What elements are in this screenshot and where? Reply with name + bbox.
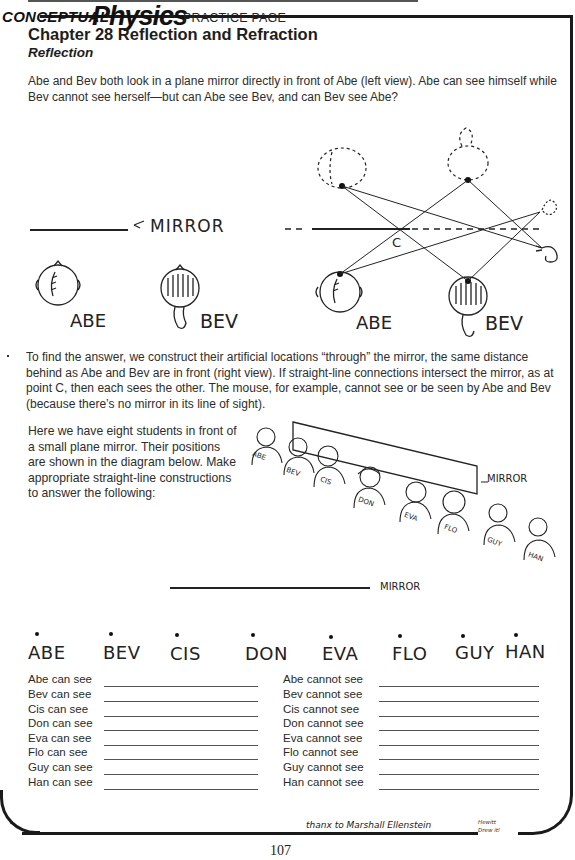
- answer-label-eva-cannot: Eva cannot see: [283, 732, 362, 744]
- position-label-han: HAN: [505, 641, 546, 662]
- answer-label-han-can: Han can see: [28, 776, 93, 788]
- answer-blank-bev-cannot[interactable]: [379, 701, 539, 702]
- abe-head-icon: [316, 272, 362, 312]
- abe-label: ABE: [70, 310, 106, 331]
- answer-blank-bev-can[interactable]: [104, 701, 258, 702]
- explanation-paragraph: To find the answer, we construct their a…: [26, 350, 556, 412]
- answer-blank-han-can[interactable]: [104, 789, 258, 790]
- position-dot-guy: [461, 634, 465, 638]
- bev-head-icon: [449, 277, 487, 336]
- answer-blank-don-can[interactable]: [104, 730, 258, 731]
- credit-text: thanx to Marshall Ellenstein: [306, 820, 431, 830]
- mouse-icon: [536, 246, 557, 262]
- left-view-illustration: [0, 120, 290, 340]
- position-dot-eva: [329, 635, 333, 639]
- answer-blank-flo-can[interactable]: [104, 759, 258, 760]
- answer-blank-flo-cannot[interactable]: [379, 759, 539, 760]
- chapter-title: Chapter 28 Reflection and Refraction: [28, 25, 318, 44]
- answer-blank-don-cannot[interactable]: [379, 730, 539, 731]
- intro-paragraph: Abe and Bev both look in a plane mirror …: [28, 74, 558, 105]
- position-dot-flo: [398, 634, 402, 638]
- mirror-line: [170, 587, 370, 589]
- position-dot-bev: [109, 632, 113, 636]
- position-label-bev: BEV: [103, 642, 141, 663]
- answer-label-eva-can: Eva can see: [28, 732, 91, 744]
- bev-label: BEV: [485, 312, 523, 334]
- figure-students-perspective: MIRROR ABE BEV CIS DON EVA FLO GUY HAN: [240, 410, 570, 580]
- student-positions-row: ABE BEV CIS DON EVA FLO GUY HAN: [0, 630, 575, 670]
- bullet-mark: [7, 355, 9, 357]
- answer-blank-eva-can[interactable]: [104, 745, 258, 746]
- answer-label-bev-cannot: Bev cannot see: [283, 688, 362, 700]
- bev-virtual-image-icon: [448, 128, 488, 180]
- abe-virtual-image-icon: [318, 148, 366, 188]
- position-label-abe: ABE: [28, 642, 66, 663]
- figure-left-view: MIRROR ABE BEV: [0, 120, 290, 340]
- mirror-label: MIRROR: [487, 473, 527, 484]
- position-label-flo: FLO: [392, 643, 427, 664]
- answer-label-abe-can: Abe can see: [28, 673, 92, 685]
- answer-label-guy-can: Guy can see: [28, 761, 93, 773]
- answer-label-han-cannot: Han cannot see: [283, 776, 364, 788]
- answer-blank-han-cannot[interactable]: [379, 789, 539, 790]
- answer-label-flo-cannot: Flo cannot see: [283, 746, 358, 758]
- position-dot-han: [514, 633, 518, 637]
- students-mirror-illustration: [240, 410, 570, 580]
- page-frame-corner-left: [0, 790, 40, 834]
- answer-label-guy-cannot: Guy cannot see: [283, 761, 364, 773]
- position-dot-cis: [175, 633, 179, 637]
- page-type: PRACTICE PAGE: [183, 11, 286, 25]
- position-label-eva: EVA: [322, 643, 358, 664]
- answer-blank-cis-can[interactable]: [104, 716, 258, 717]
- answer-blank-abe-cannot[interactable]: [379, 686, 539, 687]
- answer-blank-abe-can[interactable]: [104, 686, 258, 687]
- answer-blank-eva-cannot[interactable]: [379, 745, 539, 746]
- signature: Hewitt Drew it!: [478, 818, 518, 840]
- answer-label-abe-cannot: Abe cannot see: [283, 673, 363, 685]
- position-label-guy: GUY: [455, 642, 495, 663]
- position-dot-abe: [35, 632, 39, 636]
- bev-head-icon: [161, 265, 199, 328]
- figure-right-view: C ABE BEV: [280, 120, 570, 340]
- answer-label-flo-can: Flo can see: [28, 746, 87, 758]
- answer-label-bev-can: Bev can see: [28, 688, 91, 700]
- mouse-virtual-image-icon: [542, 200, 557, 214]
- abe-label: ABE: [356, 312, 392, 333]
- task-paragraph: Here we have eight students in front of …: [28, 424, 238, 502]
- answer-label-don-can: Don can see: [28, 717, 93, 729]
- position-dot-don: [251, 633, 255, 637]
- page-number: 107: [270, 843, 291, 859]
- answer-blank-cis-cannot[interactable]: [379, 716, 539, 717]
- right-view-ray-diagram: [280, 120, 570, 340]
- abe-head-icon: [36, 261, 80, 305]
- top-rule: [28, 0, 418, 2]
- signature-text: Hewitt Drew it!: [478, 818, 508, 834]
- page-frame-bottom: [22, 832, 522, 835]
- answer-blank-guy-can[interactable]: [104, 774, 258, 775]
- point-c-label: C: [392, 235, 401, 250]
- position-label-don: DON: [245, 643, 288, 664]
- section-title: Reflection: [28, 45, 93, 60]
- cannot-see-list: Abe cannot see Bev cannot see Cis cannot…: [283, 673, 553, 793]
- position-label-cis: CIS: [170, 643, 201, 664]
- mirror-label: MIRROR: [380, 581, 420, 592]
- answer-label-cis-cannot: Cis cannot see: [283, 703, 359, 715]
- answer-label-cis-can: Cis can see: [28, 703, 88, 715]
- bev-label: BEV: [200, 310, 238, 332]
- can-see-list: Abe can see Bev can see Cis can see Don …: [28, 673, 268, 793]
- answer-blank-guy-cannot[interactable]: [379, 774, 539, 775]
- answer-label-don-cannot: Don cannot see: [283, 717, 364, 729]
- mirror-label: MIRROR: [150, 216, 225, 236]
